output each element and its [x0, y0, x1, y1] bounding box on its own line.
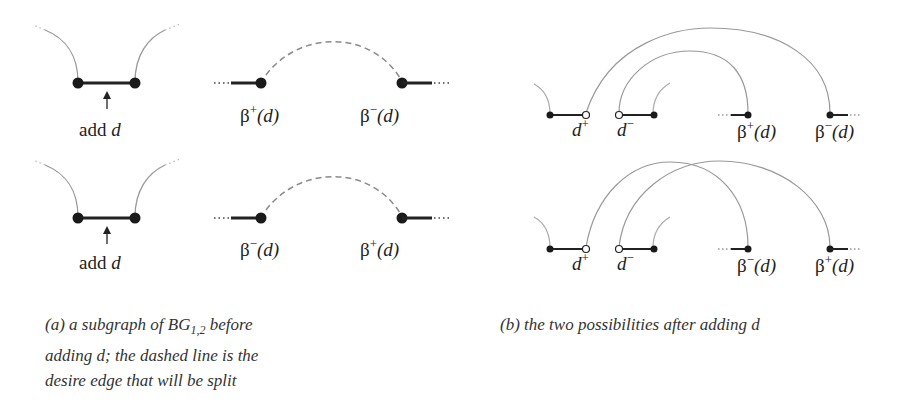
caption-a-line-2: adding d; the dashed line is the	[45, 343, 245, 368]
arc-edge	[619, 51, 748, 113]
dotted-continuation	[33, 160, 45, 165]
d-minus-label: d−	[617, 116, 634, 140]
caption-a-line-1: (a) a subgraph of BG1,2 before	[45, 312, 245, 343]
beta-right-label: β−(d)	[815, 118, 854, 143]
node	[256, 213, 267, 224]
desire-edge-dashed	[266, 42, 400, 78]
add-d-label: add d	[79, 119, 121, 140]
beta-right-label: β+(d)	[815, 252, 854, 277]
open-node	[616, 246, 623, 253]
arc-edge	[45, 30, 78, 82]
caption-a: (a) a subgraph of BG1,2 before adding d;…	[45, 312, 245, 393]
beta-left-label: β−(d)	[737, 252, 776, 277]
node	[73, 78, 84, 89]
add-d-label: add d	[79, 252, 121, 273]
arc-edge	[653, 217, 670, 248]
desire-edge-dashed	[266, 177, 400, 213]
arc-edge	[586, 28, 830, 113]
beta-right-label: β−(d)	[360, 102, 399, 127]
caption-b-line-1: (b) the two possibilities after adding d	[500, 312, 760, 337]
node	[651, 246, 658, 253]
caption-b: (b) the two possibilities after adding d	[500, 312, 760, 337]
arrowhead-icon	[103, 226, 111, 234]
d-plus-label: d+	[572, 116, 589, 140]
beta-left-label: β+(d)	[737, 118, 776, 143]
caption-a-line-3: desire edge that will be split	[45, 368, 245, 393]
node	[130, 78, 141, 89]
arc-edge	[534, 217, 550, 248]
beta-left-label: β−(d)	[240, 236, 279, 261]
node	[547, 112, 554, 119]
d-minus-label: d−	[617, 250, 634, 274]
beta-left-label: β+(d)	[240, 102, 279, 127]
beta-right-label: β+(d)	[360, 236, 399, 261]
arc-edge	[135, 30, 165, 82]
arc-edge	[45, 165, 78, 217]
panel-a-row-1: add d β+(d) β−(d)	[33, 24, 450, 140]
arrowhead-icon	[103, 91, 111, 99]
node	[130, 213, 141, 224]
panel-b-row-2: d+ d− β−(d) β+(d)	[534, 161, 862, 277]
node	[73, 213, 84, 224]
panel-b-row-1: d+ d− β+(d) β−(d)	[534, 28, 862, 143]
node	[256, 78, 267, 89]
arc-edge	[653, 83, 670, 114]
arc-edge	[534, 84, 550, 114]
open-node	[616, 112, 623, 119]
node	[651, 112, 658, 119]
d-plus-label: d+	[572, 250, 589, 274]
dotted-continuation	[165, 159, 180, 165]
arc-edge	[135, 165, 165, 217]
node	[547, 246, 554, 253]
dotted-continuation	[165, 24, 180, 30]
dotted-continuation	[33, 25, 45, 30]
arc-edge	[619, 161, 830, 247]
panel-a-row-2: add d β−(d) β+(d)	[33, 159, 450, 273]
